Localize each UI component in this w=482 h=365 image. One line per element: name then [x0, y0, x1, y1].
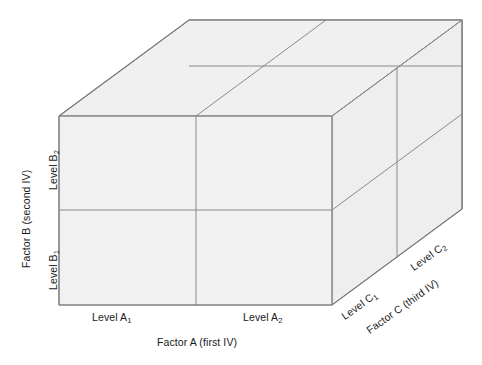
factorial-design-cube — [0, 0, 482, 365]
level-b1-label: Level B1 — [47, 250, 59, 290]
level-b2-label: Level B2 — [47, 150, 59, 190]
figure-canvas: Factor B (second IV) Level B2 Level B1 L… — [0, 0, 482, 365]
level-a1-label: Level A1 — [92, 311, 131, 323]
level-a2-label: Level A2 — [243, 311, 282, 323]
axis-b-title: Factor B (second IV) — [20, 170, 32, 268]
axis-a-title: Factor A (first IV) — [157, 336, 237, 348]
